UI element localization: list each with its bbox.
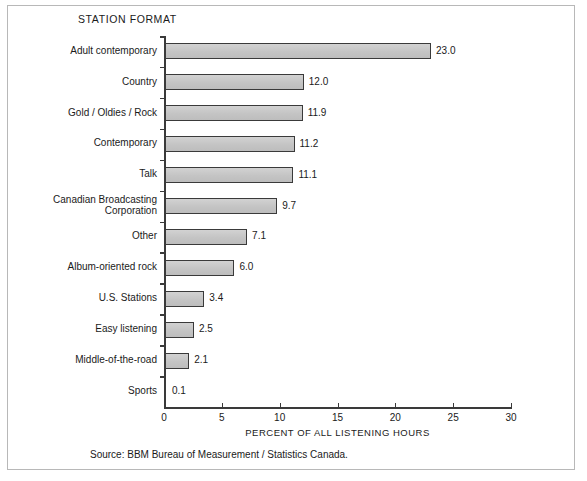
bar-canadian-broadcasting-corporation xyxy=(165,198,277,214)
bar-value-label-contemporary: 11.2 xyxy=(300,138,319,149)
x-axis-tick-label: 20 xyxy=(380,412,410,423)
bar-gold-oldies-rock xyxy=(165,105,303,121)
category-label-easy-listening: Easy listening xyxy=(12,323,157,335)
x-axis-tick-label: 30 xyxy=(496,412,526,423)
category-label-sports: Sports xyxy=(12,385,157,397)
bar-talk xyxy=(165,167,293,183)
bar-other xyxy=(165,229,247,245)
y-axis-tick xyxy=(160,376,164,378)
x-axis-tick xyxy=(164,403,165,407)
category-label-contemporary: Contemporary xyxy=(12,137,157,149)
bar-country xyxy=(165,74,304,90)
x-axis-tick-label: 0 xyxy=(149,412,179,423)
x-axis-tick xyxy=(511,403,512,407)
category-label-country: Country xyxy=(12,76,157,88)
category-label-middle-of-the-road: Middle-of-the-road xyxy=(12,354,157,366)
y-axis-tick xyxy=(160,222,164,224)
source-note: Source: BBM Bureau of Measurement / Stat… xyxy=(90,449,348,460)
category-label-gold-oldies-rock: Gold / Oldies / Rock xyxy=(12,107,157,119)
bar-value-label-other: 7.1 xyxy=(252,230,266,241)
bar-easy-listening xyxy=(165,322,194,338)
x-axis-tick-label: 10 xyxy=(265,412,295,423)
bar-value-label-easy-listening: 2.5 xyxy=(199,323,213,334)
category-label-other: Other xyxy=(12,230,157,242)
category-label-u-s-stations: U.S. Stations xyxy=(12,292,157,304)
bar-chart-plot-area: Adult contemporary23.0Country12.0Gold / … xyxy=(8,6,576,471)
bar-value-label-canadian-broadcasting-corporation: 9.7 xyxy=(282,200,296,211)
figure-frame: STATION FORMAT Adult contemporary23.0Cou… xyxy=(7,5,575,470)
bar-value-label-talk: 11.1 xyxy=(298,169,317,180)
y-axis-tick xyxy=(160,129,164,131)
bar-value-label-adult-contemporary: 23.0 xyxy=(436,45,455,56)
y-axis-tick xyxy=(160,36,164,38)
category-label-album-oriented-rock: Album-oriented rock xyxy=(12,261,157,273)
bar-middle-of-the-road xyxy=(165,353,189,369)
x-axis-tick xyxy=(453,403,454,407)
bar-value-label-middle-of-the-road: 2.1 xyxy=(194,354,208,365)
bar-u-s-stations xyxy=(165,291,204,307)
category-label-talk: Talk xyxy=(12,168,157,180)
category-label-adult-contemporary: Adult contemporary xyxy=(12,45,157,57)
x-axis-tick xyxy=(395,403,396,407)
y-axis-tick xyxy=(160,283,164,285)
bar-contemporary xyxy=(165,136,295,152)
y-axis-tick xyxy=(160,98,164,100)
y-axis-tick xyxy=(160,252,164,254)
y-axis-tick xyxy=(160,314,164,316)
bar-value-label-album-oriented-rock: 6.0 xyxy=(239,261,253,272)
y-axis-tick xyxy=(160,191,164,193)
x-axis-tick-label: 25 xyxy=(438,412,468,423)
bar-value-label-u-s-stations: 3.4 xyxy=(209,292,223,303)
bar-adult-contemporary xyxy=(165,43,431,59)
x-axis-title: PERCENT OF ALL LISTENING HOURS xyxy=(164,427,511,438)
category-label-canadian-broadcasting-corporation: Canadian Broadcasting Corporation xyxy=(12,194,157,217)
x-axis-tick-label: 5 xyxy=(207,412,237,423)
y-axis-tick xyxy=(160,67,164,69)
bar-value-label-sports: 0.1 xyxy=(172,385,186,396)
y-axis-tick xyxy=(160,160,164,162)
x-axis-tick-label: 15 xyxy=(323,412,353,423)
y-axis-tick xyxy=(160,345,164,347)
bar-value-label-gold-oldies-rock: 11.9 xyxy=(308,107,327,118)
x-axis-line xyxy=(164,407,512,409)
x-axis-tick xyxy=(280,403,281,407)
x-axis-tick xyxy=(338,403,339,407)
bar-album-oriented-rock xyxy=(165,260,234,276)
bar-value-label-country: 12.0 xyxy=(309,76,328,87)
x-axis-tick xyxy=(222,403,223,407)
